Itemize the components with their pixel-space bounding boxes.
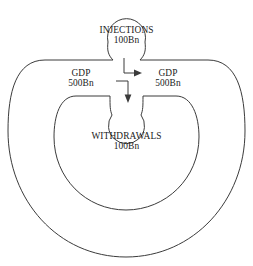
gdp-right-value-text: 500Bn: [143, 78, 193, 88]
circular-flow-diagram: INJECTIONS 100Bn GDP 500Bn GDP 500Bn WIT…: [0, 0, 253, 266]
withdrawals-stem-right: [141, 96, 143, 115]
injections-label: INJECTIONS 100Bn: [0, 25, 253, 45]
outer-flow-path: [8, 60, 245, 257]
injection-arrow-head: [134, 70, 142, 77]
gdp-left-label: GDP 500Bn: [56, 68, 106, 88]
gdp-right-label-text: GDP: [143, 68, 193, 78]
gdp-left-label-text: GDP: [56, 68, 106, 78]
withdrawal-arrow-head: [125, 95, 132, 104]
withdrawals-stem-left: [110, 96, 112, 115]
gdp-right-label: GDP 500Bn: [143, 68, 193, 88]
withdrawal-arrow-line: [116, 81, 128, 96]
withdrawals-value-text: 100Bn: [0, 141, 253, 151]
inner-flow-path: [54, 96, 199, 210]
injections-label-text: INJECTIONS: [0, 25, 253, 35]
gdp-left-value-text: 500Bn: [56, 78, 106, 88]
withdrawals-label: WITHDRAWALS 100Bn: [0, 131, 253, 151]
injections-value-text: 100Bn: [0, 35, 253, 45]
withdrawals-label-text: WITHDRAWALS: [0, 131, 253, 141]
